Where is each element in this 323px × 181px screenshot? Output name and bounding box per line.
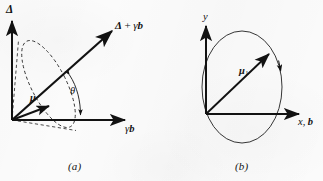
panel-b-vertical-axis-label: y — [203, 12, 208, 23]
panel-b: y x,b μ1 (b) — [163, 0, 323, 181]
angle-theta-label: θ — [70, 86, 75, 97]
moment-label-subscript: 1 — [245, 69, 249, 76]
resultant-vector-label: Δ+γb — [115, 20, 143, 31]
panel-b-caption: (b) — [235, 160, 248, 172]
resultant-label-delta: Δ — [115, 19, 122, 31]
panel-a-horizontal-axis-label: γb — [125, 124, 134, 135]
moment-vector-label: μ1 — [239, 66, 248, 77]
precession-orbit-ellipse — [202, 31, 282, 143]
resultant-vector-arrow — [12, 31, 112, 120]
panel-a-vertical-axis-label: Δ — [6, 4, 13, 16]
moment-label-mu: μ — [239, 65, 245, 76]
magnetic-moment-arrow — [12, 106, 49, 120]
panel-b-horizontal-axis-label: x,b — [298, 117, 313, 128]
magnetic-moment-label: μ — [30, 93, 36, 104]
figure-root: Δ γb Δ+γb μ θ (a) — [0, 0, 323, 181]
panel-a-axis-b: b — [129, 123, 134, 134]
resultant-label-b: b — [137, 19, 143, 31]
panel-a: Δ γb Δ+γb μ θ (a) — [0, 0, 163, 181]
moment-vector-arrow — [206, 54, 269, 114]
resultant-label-plus: + — [122, 19, 133, 31]
panel-b-graphics — [163, 0, 323, 181]
panel-a-caption: (a) — [68, 160, 81, 172]
panel-b-axis-b: b — [305, 116, 313, 127]
